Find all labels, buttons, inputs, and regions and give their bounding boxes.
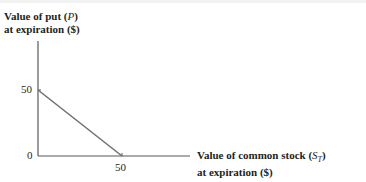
- x-axis-label-part: ): [322, 149, 326, 161]
- x-tick-label-50: 50: [115, 161, 126, 173]
- y-tick-label-50: 50: [21, 83, 32, 95]
- put-payoff-line: [38, 90, 122, 156]
- x-axis-label: Value of common stock (ST) at expiration…: [197, 149, 326, 179]
- y-tick-label-0: 0: [27, 149, 33, 161]
- x-axis-label-part: Value of common stock (: [197, 149, 312, 161]
- x-axis-label-line2: at expiration ($): [197, 166, 273, 178]
